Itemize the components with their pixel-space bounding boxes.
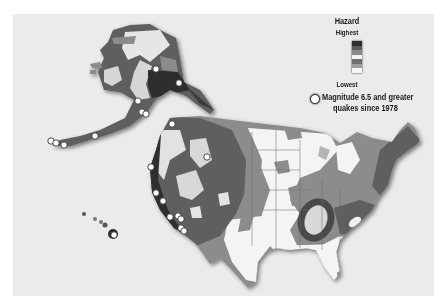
- quake-marker-icon: [310, 94, 320, 104]
- quake-marker: [135, 98, 141, 104]
- quake-legend-line-2: quakes since 1978: [333, 103, 398, 113]
- legend-highest-label: Highest: [331, 28, 364, 37]
- quake-marker: [148, 164, 154, 170]
- quake-marker: [204, 154, 210, 160]
- legend-title: Hazard: [331, 16, 364, 26]
- conus-region: [148, 116, 420, 288]
- quake-marker: [181, 228, 187, 234]
- quake-marker: [61, 142, 67, 148]
- hazard-scale-bar: [352, 41, 362, 73]
- quake-marker: [153, 66, 159, 72]
- quake-legend-line-1: Magnitude 6.5 and greater: [322, 92, 413, 102]
- quake-marker: [176, 80, 182, 86]
- hazard-scale-swatch: [352, 68, 362, 73]
- legend-lowest-label: Lowest: [331, 80, 364, 89]
- quake-marker: [169, 121, 175, 127]
- quake-marker: [111, 232, 117, 238]
- quake-marker: [178, 216, 184, 222]
- seismic-hazard-map: [0, 0, 447, 308]
- quake-marker: [167, 214, 173, 220]
- quake-marker: [153, 190, 159, 196]
- quake-marker: [92, 133, 98, 139]
- quake-marker: [53, 140, 59, 146]
- quake-marker: [143, 111, 149, 117]
- quake-marker: [160, 198, 166, 204]
